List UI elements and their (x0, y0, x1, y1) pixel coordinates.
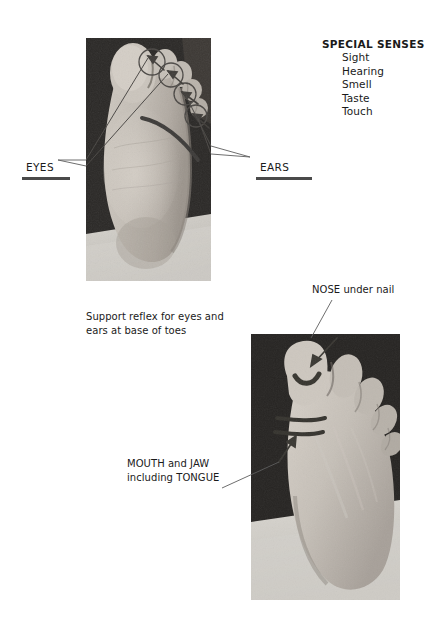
list-item: Smell (342, 78, 425, 91)
special-senses-block: SPECIAL SENSES Sight Hearing Smell Taste… (322, 38, 425, 118)
page-root: SPECIAL SENSES Sight Hearing Smell Taste… (0, 0, 431, 631)
special-senses-heading: SPECIAL SENSES (322, 38, 425, 51)
label-eyes-text: EYES (22, 161, 70, 173)
label-ears: EARS (256, 161, 312, 180)
label-ears-rule (256, 177, 312, 180)
label-ears-text: EARS (256, 161, 312, 173)
list-item: Touch (342, 105, 425, 118)
list-item: Hearing (342, 65, 425, 78)
photo-sole-of-foot (86, 38, 211, 281)
label-mouth-and-jaw: MOUTH and JAW including TONGUE (127, 457, 219, 484)
list-item: Taste (342, 92, 425, 105)
caption-support-reflex: Support reflex for eyes and ears at base… (86, 310, 224, 337)
list-item: Sight (342, 51, 425, 64)
special-senses-list: Sight Hearing Smell Taste Touch (322, 51, 425, 118)
photo-top-artwork (251, 334, 400, 600)
photo-sole-artwork (86, 38, 211, 281)
label-eyes-rule (22, 177, 70, 180)
label-nose-under-nail: NOSE under nail (312, 283, 394, 297)
leader-line-ears-a (211, 146, 250, 157)
leader-line-ears-b (211, 154, 250, 157)
photo-top-of-foot (251, 334, 400, 600)
leader-line-nose (311, 300, 332, 338)
label-eyes: EYES (22, 161, 70, 180)
